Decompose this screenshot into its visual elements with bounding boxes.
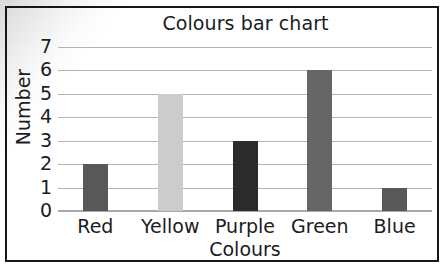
y-axis-tick-label: 2 (26, 154, 52, 173)
x-axis-title: Colours (58, 238, 432, 260)
chart-title: Colours bar chart (58, 12, 433, 34)
x-axis-tick-labels: RedYellowPurpleGreenBlue (58, 214, 432, 240)
bar-blue (382, 188, 407, 211)
bar-red (83, 164, 108, 211)
x-axis-tick-label-red: Red (77, 214, 113, 238)
x-axis-tick-label-blue: Blue (374, 214, 416, 238)
y-axis-tick-label: 6 (26, 60, 52, 79)
y-axis-tick-label: 5 (26, 84, 52, 103)
y-axis-tick-label: 1 (26, 178, 52, 197)
y-axis-tick-label: 7 (26, 37, 52, 56)
bar-chart-figure: Colours bar chart Number 76543210 RedYel… (0, 0, 447, 272)
gridline (58, 94, 432, 95)
plot-area (58, 47, 432, 211)
x-axis-tick-label-yellow: Yellow (141, 214, 200, 238)
x-axis-tick-label-green: Green (291, 214, 349, 238)
bar-yellow (158, 94, 183, 211)
x-axis-tick-label-purple: Purple (215, 214, 275, 238)
y-axis-tick-label: 4 (26, 107, 52, 126)
bar-green (307, 70, 332, 211)
y-axis-tick-label: 3 (26, 131, 52, 150)
gridline (58, 47, 432, 48)
gridline (58, 70, 432, 71)
y-axis-tick-labels: 76543210 (22, 47, 52, 211)
gridline (58, 117, 432, 118)
bar-purple (233, 141, 258, 211)
y-axis-tick-label: 0 (26, 201, 52, 220)
